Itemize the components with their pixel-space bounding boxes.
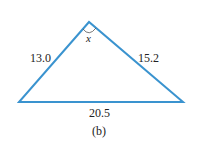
figure-caption: (b) <box>92 124 106 138</box>
angle-label: x <box>85 32 91 44</box>
side-bottom-label: 20.5 <box>89 106 110 120</box>
side-left-label: 13.0 <box>30 51 51 65</box>
side-right-label: 15.2 <box>138 51 159 65</box>
triangle-figure: x 13.0 15.2 20.5 (b) <box>0 0 198 145</box>
triangle-diagram: x 13.0 15.2 20.5 (b) <box>0 0 198 145</box>
